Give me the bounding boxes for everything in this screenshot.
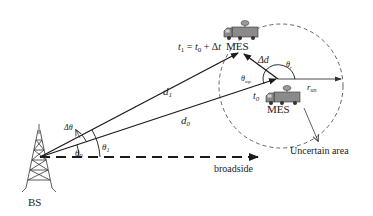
mes-t0-label: MES [267,103,290,115]
d1-vector [40,53,238,157]
mes-t1-truck-icon [224,21,258,41]
t0-label: t0 [253,90,260,103]
d0-label: d0 [181,114,191,128]
t1-equation-label: t1 = t0 + Δt [178,41,221,54]
d0-vector [40,79,276,157]
theta1-label: θ1 [102,142,109,153]
bs-tower-icon [22,124,56,192]
theta-r-label: θr [286,60,292,70]
delta-d-label: Δd [257,54,270,65]
diagram-canvas: BS MES t0 MES t1 = t0 + Δt d1 d0 Δd run … [0,0,373,216]
uncertain-area-pointer [304,108,318,141]
theta1-arc [92,130,100,157]
bs-label: BS [28,196,41,208]
broadside-label: broadside [214,163,253,174]
d1-label: d1 [163,85,172,99]
uncertain-area-label: Uncertain area [290,145,349,156]
delta-theta-label: Δθ [63,123,73,132]
r-un-label: run [307,82,317,93]
mes-t1-label: MES [226,40,249,52]
theta0-label: θ0 [75,148,82,159]
theta-mp-label: θmp [241,74,252,84]
